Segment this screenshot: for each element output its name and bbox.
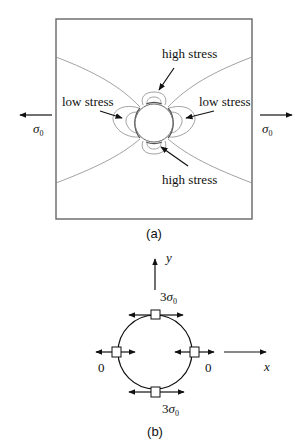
caption-a: (a) (146, 226, 162, 241)
label-high-stress-bottom: high stress (162, 172, 217, 187)
label-right-value: 0 (205, 360, 212, 375)
panel-a: high stress low stress low stress high s… (20, 19, 292, 241)
label-low-stress-right: low stress (199, 94, 251, 109)
hole (135, 104, 173, 142)
arrow-high-stress-top (159, 68, 174, 90)
arrow-high-stress-bottom (161, 147, 188, 166)
arrow-low-stress-left (100, 111, 122, 118)
label-top-value: 3σ0 (160, 289, 177, 306)
y-axis-label: y (164, 250, 172, 265)
stress-concentration-figure: high stress low stress low stress high s… (0, 0, 306, 442)
element-left (112, 347, 121, 357)
label-bottom-value: 3σ0 (162, 401, 179, 418)
x-axis-label: x (263, 359, 270, 374)
label-high-stress-top: high stress (162, 46, 217, 61)
caption-b: (b) (147, 424, 163, 439)
label-left-value: 0 (98, 360, 105, 375)
panel-b: y x 3σ0 0 0 3σ0 (b) (96, 250, 270, 439)
load-label-left: σ0 (33, 121, 43, 138)
element-right (190, 347, 199, 357)
load-label-right: σ0 (262, 121, 272, 138)
label-low-stress-left: low stress (62, 94, 114, 109)
element-bottom (151, 387, 160, 397)
element-top (151, 310, 160, 319)
arrow-low-stress-right (186, 111, 214, 118)
